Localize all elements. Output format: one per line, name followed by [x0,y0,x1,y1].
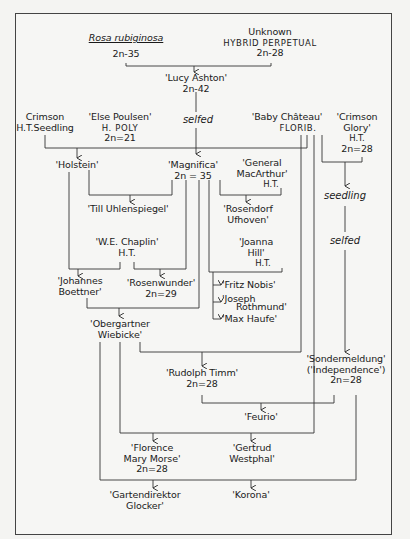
node-max-haufe: 'Max Haufe' [222,314,277,325]
node-rosendorf-ufhoven: 'Rosendorf Ufhoven' [223,204,273,225]
node-joseph-rothmund: 'Joseph Rothmund' [222,294,287,312]
node-gertrud-westphal: 'Gertrud Westphal' [229,443,275,464]
node-magnifica: 'Magnifica' 2n = 35 [168,160,218,181]
node-rudolph-timm: 'Rudolph Timm' 2n=28 [166,368,238,389]
node-holstein: 'Holstein' [56,160,99,171]
node-feurio: 'Feurio' [244,412,278,423]
node-till-uhlenspiegel: 'Till Uhlenspiegel' [87,204,168,215]
node-rosenwunder: 'Rosenwunder' 2n=29 [127,278,195,299]
node-florence-mary-morse: 'Florence Mary Morse' 2n=28 [124,443,181,475]
node-crimson-ht-seedling: Crimson H.T.Seedling [16,112,74,133]
node-lucy-ashton: 'Lucy Ashton' 2n-42 [165,73,227,94]
node-fritz-nobis: 'Fritz Nobis' [222,280,276,291]
node-rosa-rubiginosa: Rosa rubiginosa 2n-35 [89,33,164,59]
node-general-macarthur: 'General MacArthur' H.T. [237,158,288,190]
node-else-poulsen: 'Else Poulsen' H. POLY 2n=21 [89,112,152,144]
edge-label-selfed-2: selfed [330,235,360,246]
node-we-chaplin: 'W.E. Chaplin' H.T. [96,237,159,258]
node-baby-chateau: 'Baby Château' FLORIB. [252,112,323,133]
node-korona: 'Korona' [232,490,269,501]
node-crimson-glory: 'Crimson Glory' H.T. 2n=28 [336,112,377,154]
node-johannes-boettner: 'Johannes Boettner' [57,276,102,297]
edge-label-selfed-1: selfed [183,114,213,125]
node-sondermeldung: 'Sondermeldung' ('Independence') 2n=28 [306,354,385,386]
node-gartendirektor-glocker: 'Gartendirektor Glocker' [110,490,181,511]
node-obergartner-wiebicke: 'Obergartner Wiebicke' [90,319,150,340]
node-unknown-hybrid-perpetual: Unknown HYBRID PERPETUAL 2n-28 [223,27,317,59]
node-joanna-hill: 'Joanna Hill' H.T. [239,237,273,269]
edge-label-seedling: seedling [324,190,366,201]
